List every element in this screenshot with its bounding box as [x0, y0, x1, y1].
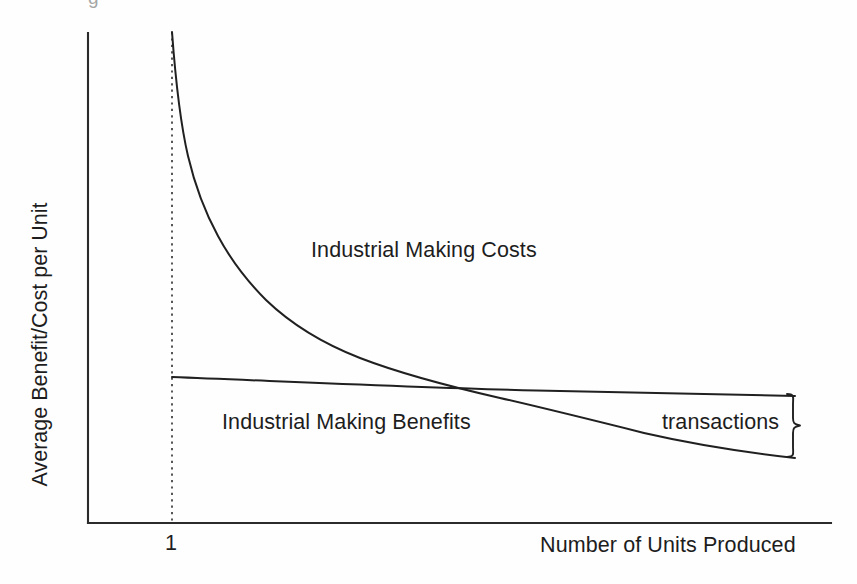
- transactions-label: transactions: [662, 410, 779, 435]
- chart-canvas: [0, 0, 857, 584]
- x-axis-title: Number of Units Produced: [540, 533, 796, 558]
- y-axis-title: Average Benefit/Cost per Unit: [28, 165, 53, 525]
- x-axis-tick-label-1: 1: [165, 531, 177, 556]
- benefit-curve-label: Industrial Making Benefits: [222, 410, 471, 435]
- cost-curve-label: Industrial Making Costs: [311, 238, 537, 263]
- transactions-brace-icon: [787, 394, 800, 457]
- figure-container: g Average Benefit/Cost per Unit Number o…: [0, 0, 857, 584]
